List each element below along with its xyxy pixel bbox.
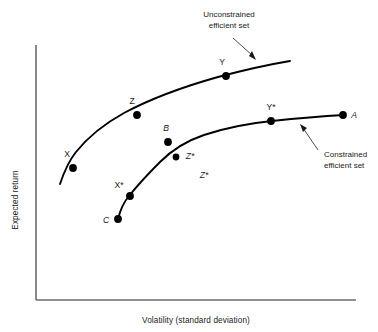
unconstrained-annotation-line1: Unconstrained — [203, 10, 255, 19]
unconstrained-leader-line — [233, 38, 253, 56]
data-point-B[interactable] — [164, 138, 172, 146]
unconstrained-arrow-icon — [249, 51, 256, 60]
point-label-C: C — [103, 215, 110, 225]
point-label-A: A — [350, 110, 357, 120]
constrained-annotation-line2: efficient set — [324, 161, 365, 170]
data-point-Z-star[interactable] — [173, 154, 180, 161]
unconstrained-annotation-line2: efficient set — [209, 21, 250, 30]
y-axis-label: Expected return — [11, 170, 20, 230]
point-label-B: B — [163, 123, 169, 133]
point-label-Z-star-marked: Z* — [185, 151, 195, 161]
constrained-annotation-line1: Constrained — [324, 150, 367, 159]
point-label-Y-star: Y* — [266, 102, 276, 112]
data-point-C[interactable] — [114, 215, 122, 223]
point-label-X: X — [64, 149, 70, 159]
point-label-Z-star-free: Z* — [199, 170, 209, 180]
point-label-Y: Y — [219, 57, 225, 67]
constrained-curve — [118, 115, 344, 219]
efficient-frontier-chart: Expected return Volatility (standard dev… — [0, 0, 378, 332]
x-axis-label: Volatility (standard deviation) — [142, 316, 250, 325]
data-point-Y[interactable] — [222, 72, 230, 80]
data-point-X[interactable] — [69, 164, 77, 172]
chart-canvas: Expected return Volatility (standard dev… — [0, 0, 378, 332]
data-point-A[interactable] — [339, 111, 347, 119]
point-label-X-star: X* — [114, 180, 124, 190]
data-point-Z[interactable] — [133, 111, 141, 119]
constrained-arrow-icon — [300, 124, 307, 132]
data-point-X-star[interactable] — [126, 192, 134, 200]
data-point-Y-star[interactable] — [267, 117, 275, 125]
point-label-Z: Z — [129, 96, 134, 106]
constrained-leader-line — [303, 128, 318, 150]
